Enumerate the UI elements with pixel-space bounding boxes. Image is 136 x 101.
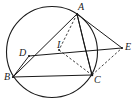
segment-A-B	[13, 14, 77, 77]
point-D	[28, 55, 30, 57]
points-layer	[12, 13, 123, 78]
geometry-figure: A B C D E I	[0, 0, 136, 101]
point-E	[121, 47, 123, 49]
point-label-I: I	[57, 40, 60, 50]
point-B	[12, 76, 14, 78]
segments-layer	[13, 14, 122, 77]
segment-D-E	[29, 48, 122, 56]
point-label-E: E	[125, 42, 131, 52]
point-A	[76, 13, 78, 15]
point-label-B: B	[4, 72, 10, 82]
dashed-construction-layer	[59, 14, 122, 75]
segment-B-C	[13, 75, 92, 77]
segment-D-B	[13, 56, 29, 77]
point-C	[91, 74, 94, 77]
point-label-A: A	[78, 2, 84, 12]
point-label-D: D	[19, 48, 26, 58]
point-label-C: C	[94, 75, 101, 85]
segment-A-I	[59, 14, 77, 50]
